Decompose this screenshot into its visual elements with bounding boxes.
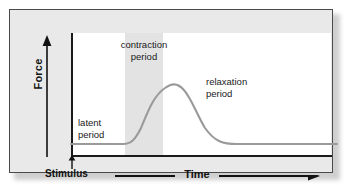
diagram-panel: Force contraction period relaxation peri… xyxy=(9,9,333,173)
time-rule-left xyxy=(115,175,175,177)
annotation-contraction-period: contraction period xyxy=(106,39,182,62)
arrow-up-icon xyxy=(67,155,77,169)
x-axis-label: Time xyxy=(177,168,217,180)
annotation-latent-period: latent period xyxy=(78,117,126,140)
x-axis-label-group: Time xyxy=(115,167,320,185)
twitch-curve xyxy=(65,70,340,160)
arrow-right-icon xyxy=(219,175,320,185)
y-axis-label: Force xyxy=(32,44,44,104)
annotation-relaxation-period: relaxation period xyxy=(206,76,286,99)
stimulus-label: Stimulus xyxy=(45,168,88,179)
muscle-twitch-diagram: Force contraction period relaxation peri… xyxy=(0,0,351,185)
